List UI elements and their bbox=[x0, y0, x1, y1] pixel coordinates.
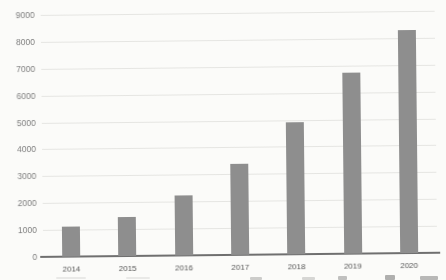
gridline-7000 bbox=[41, 65, 435, 70]
bar-2014 bbox=[62, 227, 80, 257]
x-tick-label-2016: 2016 bbox=[162, 263, 206, 273]
y-tick-label-1000: 1000 bbox=[1, 225, 37, 235]
bar-2016 bbox=[174, 195, 193, 256]
y-tick-label-0: 0 bbox=[1, 252, 37, 262]
bar-2020 bbox=[398, 30, 418, 253]
print-bleed-artifact-5 bbox=[385, 275, 395, 280]
y-tick-label-8000: 8000 bbox=[0, 37, 35, 47]
x-axis-tick-labels: 2014201520162017201820192020 bbox=[0, 0, 445, 2]
print-bleed-artifact-4 bbox=[338, 276, 347, 280]
x-tick-label-2018: 2018 bbox=[275, 262, 319, 272]
y-tick-label-9000: 9000 bbox=[0, 10, 35, 20]
print-bleed-artifact-0 bbox=[56, 277, 86, 279]
y-tick-label-2000: 2000 bbox=[1, 198, 37, 208]
y-tick-label-7000: 7000 bbox=[0, 64, 35, 74]
gridline-6000 bbox=[42, 91, 436, 96]
y-tick-label-4000: 4000 bbox=[0, 144, 36, 154]
bar-2017 bbox=[230, 163, 249, 255]
x-tick-label-2020: 2020 bbox=[387, 261, 431, 271]
gridline-9000 bbox=[41, 11, 435, 16]
gridline-8000 bbox=[41, 38, 435, 43]
bar-2015 bbox=[118, 217, 136, 256]
y-tick-label-5000: 5000 bbox=[0, 118, 36, 128]
gridline-4000 bbox=[42, 145, 436, 150]
scanned-document-page: 0100020003000400050006000700080009000 20… bbox=[0, 0, 446, 280]
x-tick-label-2014: 2014 bbox=[49, 264, 93, 274]
y-tick-label-3000: 3000 bbox=[0, 171, 36, 181]
x-tick-label-2015: 2015 bbox=[106, 264, 150, 274]
bar-2019 bbox=[342, 72, 362, 254]
chart-plot-area bbox=[0, 0, 445, 2]
x-tick-label-2019: 2019 bbox=[331, 261, 375, 271]
x-tick-label-2017: 2017 bbox=[218, 263, 262, 273]
bar-2018 bbox=[286, 122, 305, 254]
gridline-5000 bbox=[42, 118, 436, 123]
y-tick-label-6000: 6000 bbox=[0, 91, 36, 101]
print-bleed-artifact-6 bbox=[420, 276, 438, 280]
print-bleed-artifact-1 bbox=[126, 277, 150, 279]
bar-chart: 0100020003000400050006000700080009000 20… bbox=[0, 0, 446, 280]
y-axis-tick-labels: 0100020003000400050006000700080009000 bbox=[0, 0, 445, 2]
